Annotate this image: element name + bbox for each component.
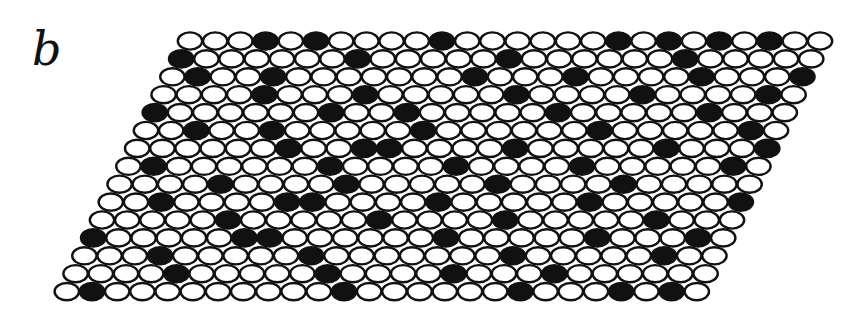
- empty-site: [241, 211, 265, 228]
- empty-site: [502, 194, 526, 211]
- empty-site: [594, 211, 618, 228]
- empty-site: [267, 158, 291, 175]
- empty-site: [702, 247, 726, 264]
- empty-site: [386, 122, 410, 139]
- empty-site: [747, 104, 771, 121]
- empty-site: [209, 122, 233, 139]
- empty-site: [139, 265, 163, 282]
- empty-site: [572, 50, 596, 67]
- empty-site: [526, 247, 550, 264]
- empty-site: [291, 211, 315, 228]
- empty-site: [451, 194, 475, 211]
- empty-site: [369, 104, 393, 121]
- empty-site: [479, 86, 503, 103]
- empty-site: [165, 211, 189, 228]
- empty-site: [556, 32, 580, 49]
- empty-site: [151, 86, 175, 103]
- filled-site: [377, 140, 401, 157]
- empty-site: [746, 158, 770, 175]
- empty-site: [115, 211, 139, 228]
- empty-site: [429, 86, 453, 103]
- empty-site: [437, 68, 461, 85]
- empty-site: [421, 50, 445, 67]
- empty-site: [192, 158, 216, 175]
- empty-site: [371, 50, 395, 67]
- empty-site: [393, 158, 417, 175]
- filled-site: [721, 158, 745, 175]
- empty-site: [361, 122, 385, 139]
- empty-site: [419, 158, 443, 175]
- empty-site: [446, 50, 470, 67]
- filled-site: [463, 68, 487, 85]
- empty-site: [678, 194, 702, 211]
- empty-site: [344, 104, 368, 121]
- empty-site: [175, 140, 199, 157]
- empty-site: [189, 265, 213, 282]
- filled-site: [654, 140, 678, 157]
- empty-site: [529, 86, 553, 103]
- empty-site: [307, 283, 331, 300]
- empty-site: [559, 283, 583, 300]
- empty-site: [467, 265, 491, 282]
- empty-site: [303, 86, 327, 103]
- empty-site: [97, 247, 121, 264]
- empty-site: [679, 140, 703, 157]
- empty-site: [243, 104, 267, 121]
- empty-site: [160, 68, 184, 85]
- empty-site: [159, 122, 183, 139]
- empty-site: [168, 104, 192, 121]
- filled-site: [657, 32, 681, 49]
- empty-site: [327, 140, 351, 157]
- empty-site: [783, 32, 807, 49]
- empty-site: [538, 68, 562, 85]
- filled-site: [570, 158, 594, 175]
- empty-site: [537, 122, 561, 139]
- empty-site: [362, 68, 386, 85]
- empty-site: [324, 247, 348, 264]
- empty-site: [483, 283, 507, 300]
- empty-site: [155, 283, 179, 300]
- empty-site: [773, 104, 797, 121]
- empty-site: [158, 176, 182, 193]
- empty-site: [174, 194, 198, 211]
- empty-site: [124, 194, 148, 211]
- empty-site: [531, 32, 555, 49]
- filled-site: [315, 265, 339, 282]
- filled-site: [577, 194, 601, 211]
- empty-site: [561, 176, 585, 193]
- empty-site: [468, 211, 492, 228]
- empty-site: [723, 50, 747, 67]
- filled-site: [143, 104, 167, 121]
- empty-site: [695, 211, 719, 228]
- empty-site: [677, 247, 701, 264]
- empty-site: [177, 86, 201, 103]
- filled-site: [318, 158, 342, 175]
- empty-site: [293, 158, 317, 175]
- empty-site: [586, 176, 610, 193]
- filled-site: [334, 176, 358, 193]
- empty-site: [378, 86, 402, 103]
- empty-site: [72, 247, 96, 264]
- empty-site: [410, 176, 434, 193]
- empty-site: [645, 158, 669, 175]
- empty-site: [359, 176, 383, 193]
- filled-site: [756, 86, 780, 103]
- empty-site: [133, 176, 157, 193]
- empty-site: [730, 140, 754, 157]
- empty-site: [580, 86, 604, 103]
- empty-site: [621, 104, 645, 121]
- empty-site: [450, 247, 474, 264]
- empty-site: [567, 265, 591, 282]
- filled-site: [426, 194, 450, 211]
- empty-site: [647, 104, 671, 121]
- empty-site: [569, 211, 593, 228]
- filled-site: [319, 104, 343, 121]
- empty-site: [400, 247, 424, 264]
- filled-site: [367, 211, 391, 228]
- filled-site: [430, 32, 454, 49]
- empty-site: [627, 247, 651, 264]
- empty-site: [385, 176, 409, 193]
- filled-site: [299, 247, 323, 264]
- empty-site: [543, 211, 567, 228]
- empty-site: [337, 68, 361, 85]
